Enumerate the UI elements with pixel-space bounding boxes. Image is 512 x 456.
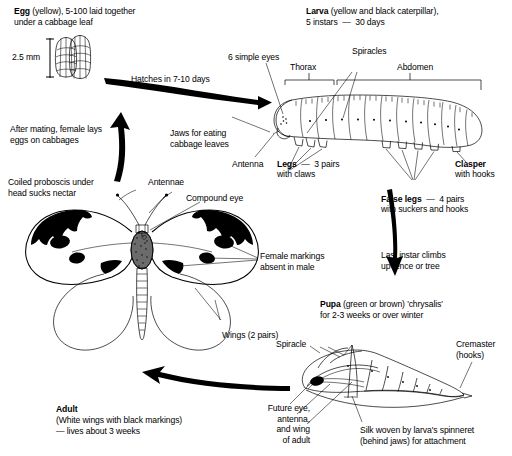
label-false-legs-line2: with suckers and hooks: [381, 204, 468, 215]
egg-scale-label: 2.5 mm: [12, 52, 40, 63]
egg-illustration: [46, 35, 91, 79]
label-silk: Silk woven by larva's spinneret (behind …: [360, 425, 474, 446]
pupa-heading-bold: Pupa: [320, 299, 341, 309]
label-spiracles: Spiracles: [352, 46, 386, 57]
life-cycle-diagram: Egg (yellow), 5-100 laid together under …: [0, 0, 512, 456]
bracket-thorax: [285, 73, 334, 85]
larva-illustration: [273, 95, 482, 152]
larva-subtext: 5 instars — 30 days: [306, 17, 385, 28]
egg-heading: Egg (yellow), 5-100 laid together: [14, 6, 135, 17]
adult-subtext2: — lives about 3 weeks: [56, 426, 140, 437]
larva-heading: Larva (yellow and black caterpillar),: [306, 6, 438, 17]
label-cremaster: Cremaster: [456, 339, 495, 350]
label-antennae: Antennae: [148, 177, 184, 188]
label-proboscis: Coiled proboscis under head sucks nectar: [8, 177, 94, 198]
label-after-mating: After mating, female lays eggs on cabbag…: [10, 124, 102, 145]
label-false-legs-rest: — 4 pairs: [422, 194, 465, 204]
label-spiracle: Spiracle: [276, 339, 306, 350]
label-legs: Legs — 3 pairs: [277, 159, 339, 170]
label-jaws: Jaws for eating cabbage leaves: [170, 128, 229, 149]
pupa-illustration: [302, 345, 472, 407]
label-wings: Wings (2 pairs): [222, 330, 278, 341]
adult-subtext: (White wings with black markings): [56, 415, 182, 426]
label-legs-bold: Legs: [277, 159, 297, 169]
label-clasper-line2: with hooks: [455, 169, 495, 180]
adult-heading: Adult: [56, 404, 77, 415]
pupa-subtext: for 2-3 weeks or over winter: [320, 310, 423, 321]
label-cremaster-line2: (hooks): [456, 350, 484, 361]
bracket-abdomen: [337, 73, 481, 90]
arrow-after-mating: [110, 112, 130, 182]
label-legs-line2: with claws: [277, 169, 315, 180]
label-female-markings: Female markings absent in male: [260, 251, 324, 272]
diagram-artwork: [0, 0, 512, 456]
arrow-pupa-to-adult: [142, 366, 290, 391]
label-future-parts: Future eye, antenna, and wing of adult: [218, 403, 310, 445]
label-abdomen: Abdomen: [397, 62, 433, 73]
pupa-heading: Pupa (green or brown) 'chrysalis': [320, 299, 443, 310]
label-legs-rest: — 3 pairs: [297, 159, 340, 169]
label-false-legs: False legs — 4 pairs: [381, 194, 464, 205]
pupa-heading-rest: (green or brown) 'chrysalis': [341, 299, 443, 309]
label-last-instar: Last instar climbs up fence or tree: [381, 250, 446, 271]
egg-heading-bold: Egg: [14, 6, 30, 16]
label-compound-eye: Compound eye: [186, 193, 243, 204]
label-antenna: Antenna: [232, 159, 263, 170]
larva-heading-bold: Larva: [306, 6, 328, 16]
label-thorax: Thorax: [290, 62, 316, 73]
butterfly-illustration: [26, 193, 259, 350]
label-false-legs-bold: False legs: [381, 194, 422, 204]
larva-heading-rest: (yellow and black caterpillar),: [328, 6, 438, 16]
label-simple-eyes: 6 simple eyes: [228, 52, 279, 63]
label-clasper: Clasper: [455, 159, 486, 170]
egg-heading-rest: (yellow), 5-100 laid together: [30, 6, 135, 16]
egg-subtext: under a cabbage leaf: [14, 17, 93, 28]
label-hatches: Hatches in 7-10 days: [131, 74, 210, 85]
